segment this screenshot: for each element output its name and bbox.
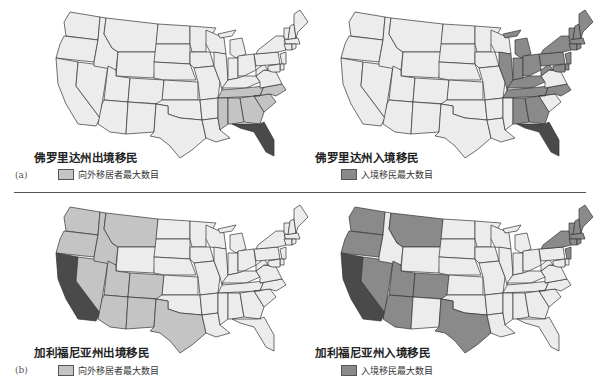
state-mt	[389, 213, 443, 247]
state-ia	[475, 247, 499, 263]
legend-swatch-medium	[341, 365, 357, 376]
state-nm	[411, 297, 441, 329]
state-de	[280, 64, 284, 70]
us-map-florida-inflow	[305, 0, 595, 160]
legend-swatch-medium	[341, 169, 357, 180]
state-nd	[441, 24, 475, 44]
state-wy	[401, 52, 441, 78]
us-map-california-inflow	[305, 195, 595, 355]
state-oh	[523, 249, 541, 271]
state-ne	[439, 257, 481, 275]
state-wa	[64, 12, 100, 40]
state-wa	[349, 12, 385, 40]
state-wy	[116, 247, 156, 273]
state-oh	[523, 54, 541, 76]
map-title-california-outflow: 加利福尼亚州出境移民	[34, 344, 149, 360]
map-title-florida-outflow: 佛罗里达州出境移民	[34, 149, 138, 165]
state-ms	[218, 98, 228, 130]
state-nj	[565, 247, 571, 259]
legend-swatch-light	[58, 365, 74, 376]
state-co	[413, 273, 449, 299]
map-panel-california-outflow	[20, 195, 310, 355]
legend-swatch-light	[58, 169, 74, 180]
state-de	[565, 64, 569, 70]
state-fl	[517, 122, 559, 156]
state-fl	[517, 317, 559, 351]
state-ne	[154, 62, 196, 80]
map-panel-california-inflow	[305, 195, 595, 355]
state-nj	[280, 247, 286, 259]
state-az	[98, 100, 128, 134]
state-mt	[104, 18, 158, 52]
state-ks	[162, 275, 198, 295]
legend-label: 入境移民最大数目	[361, 168, 433, 181]
state-fl	[232, 317, 274, 351]
state-ne	[154, 257, 196, 275]
state-in	[228, 58, 238, 80]
state-co	[128, 273, 164, 299]
state-wa	[64, 207, 100, 235]
state-sd	[154, 44, 190, 64]
map-panel-florida-inflow	[305, 0, 595, 160]
legend-california-inflow: 入境移民最大数目	[341, 364, 433, 377]
state-or	[56, 36, 98, 62]
state-nd	[156, 24, 190, 44]
state-nj	[280, 52, 286, 64]
state-in	[513, 58, 523, 80]
state-ar	[485, 98, 503, 120]
state-az	[98, 295, 128, 329]
map-panel-florida-outflow	[20, 0, 310, 160]
state-sd	[439, 44, 475, 64]
state-wy	[116, 52, 156, 78]
state-ny	[541, 36, 571, 54]
state-sd	[439, 239, 475, 259]
state-mt	[104, 213, 158, 247]
state-or	[341, 231, 383, 257]
section-divider	[14, 192, 586, 193]
state-ks	[447, 275, 483, 295]
state-ny	[256, 36, 286, 54]
state-wa	[349, 207, 385, 235]
state-co	[128, 78, 164, 104]
legend-california-outflow: 向外移居者最大数目	[58, 364, 159, 377]
legend-label: 向外移居者最大数目	[78, 168, 159, 181]
state-nm	[126, 297, 156, 329]
row-label-a: (a)	[15, 170, 27, 180]
state-ia	[190, 52, 214, 68]
state-ny	[541, 231, 571, 249]
us-map-california-outflow	[20, 195, 310, 355]
state-ms	[503, 98, 513, 130]
legend-florida-outflow: 向外移居者最大数目	[58, 168, 159, 181]
state-or	[56, 231, 98, 257]
legend-florida-inflow: 入境移民最大数目	[341, 168, 433, 181]
state-oh	[238, 54, 256, 76]
state-ia	[190, 247, 214, 263]
state-ri	[577, 239, 581, 245]
state-ks	[447, 80, 483, 100]
state-nd	[156, 219, 190, 239]
state-az	[383, 100, 413, 134]
state-de	[280, 259, 284, 265]
state-me	[579, 10, 593, 38]
state-ar	[200, 293, 218, 315]
state-nm	[126, 102, 156, 134]
state-ne	[439, 62, 481, 80]
state-ri	[577, 44, 581, 50]
legend-label: 入境移民最大数目	[361, 364, 433, 377]
state-wy	[401, 247, 441, 273]
state-de	[565, 259, 569, 265]
state-ar	[485, 293, 503, 315]
map-title-california-inflow: 加利福尼亚州入境移民	[315, 344, 430, 360]
state-nd	[441, 219, 475, 239]
state-nm	[411, 102, 441, 134]
state-ia	[475, 52, 499, 68]
us-map-florida-outflow	[20, 0, 310, 160]
state-ms	[503, 293, 513, 325]
state-co	[413, 78, 449, 104]
state-az	[383, 295, 413, 329]
state-ar	[200, 98, 218, 120]
state-or	[341, 36, 383, 62]
state-oh	[238, 249, 256, 271]
row-label-b: (b)	[15, 365, 28, 375]
state-ms	[218, 293, 228, 325]
